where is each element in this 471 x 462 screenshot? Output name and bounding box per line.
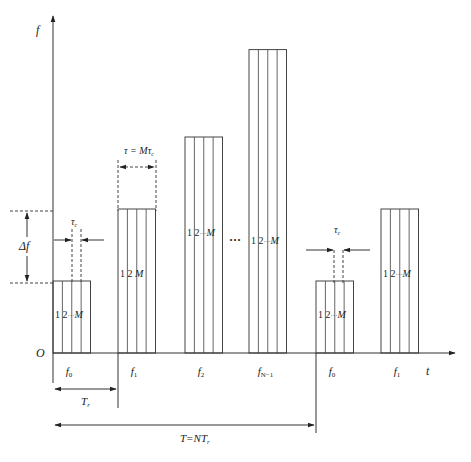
ellipsis: ···	[229, 233, 241, 247]
tau-c-label: τc	[71, 216, 78, 228]
tau-width-label: τ = Mτc	[124, 145, 154, 157]
delta-f-annotation: Δf	[10, 211, 53, 283]
tr-label: Tr	[81, 395, 90, 409]
hop-frequency-label: f0	[329, 365, 336, 379]
hop-bar: 1 2···M	[381, 209, 419, 353]
tau-width-annotation: τ = Mτc	[118, 145, 156, 211]
delta-f-label: Δf	[18, 239, 31, 253]
tau-c-annotation-left: τc	[54, 216, 104, 283]
total-period-label: T=NTr	[180, 432, 210, 446]
hop-frequency-label: f0	[66, 365, 73, 379]
hop-bar: 1 2···M	[185, 137, 223, 353]
subcarrier-index-label: 1 2 M	[120, 268, 144, 279]
hop-bars: 1 2···M1 2 M1 2···M1 2···M1 2···M1 2···M	[53, 50, 419, 353]
time-frequency-diagram: 1 2···M1 2 M1 2···M1 2···M1 2···M1 2···M…	[0, 0, 471, 462]
tr-bracket: Tr	[55, 353, 118, 409]
hop-frequency-label: f1	[131, 365, 138, 379]
hop-frequency-label: f2	[198, 365, 205, 379]
y-axis-label: f	[36, 23, 41, 37]
hop-frequency-label: f1	[394, 365, 401, 379]
hop-bar: 1 2···M	[316, 281, 354, 353]
hop-bar: 1 2 M	[118, 209, 156, 353]
hop-bar: 1 2···M	[249, 50, 287, 353]
tau-c-annotation-right: τc	[306, 224, 370, 283]
total-period-bracket: T=NTr	[55, 353, 316, 446]
origin-label: O	[36, 346, 45, 360]
hop-bar: 1 2···M	[53, 281, 91, 353]
hop-frequency-label: fN−1	[258, 365, 274, 379]
x-axis-label: t	[426, 364, 430, 378]
hop-labels: f0f1f2fN−1f0f1	[66, 365, 401, 379]
tau-c-label-right: τc	[334, 224, 341, 236]
